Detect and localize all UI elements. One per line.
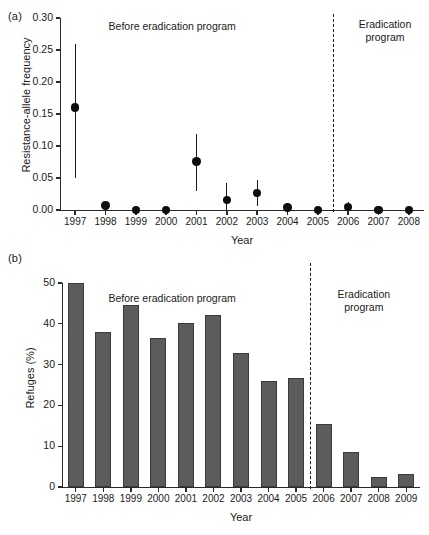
panel-a-y-tick-label: 0.15 — [12, 108, 53, 118]
panel-b-bar — [371, 477, 387, 487]
panel-a-annotation-before: Before eradication program — [72, 20, 272, 33]
panel-b-bar — [95, 332, 111, 487]
panel-a-data-point — [132, 206, 140, 214]
panel-b-x-tick — [323, 488, 324, 492]
panel-a-x-tick — [226, 211, 227, 215]
panel-b-bar — [343, 452, 359, 487]
panel-a-y-tick — [56, 209, 60, 210]
panel-b-x-tick — [295, 488, 296, 492]
panel-b-bar — [233, 353, 249, 487]
panel-a-y-tick — [56, 113, 60, 114]
panel-b-x-tick — [406, 488, 407, 492]
panel-a-y-tick-label: 0.00 — [12, 204, 53, 214]
panel-a-y-axis — [60, 18, 61, 210]
panel-a-data-point — [283, 203, 291, 211]
panel-b-bar — [68, 283, 84, 487]
panel-a-y-tick — [56, 49, 60, 50]
panel-b-y-tick-label: 20 — [22, 399, 55, 409]
panel-b-y-tick — [58, 323, 62, 324]
panel-b-annotation-eradication-line2: program — [304, 301, 424, 314]
panel-b-y-tick-label: 30 — [22, 359, 55, 369]
panel-b-x-tick — [213, 488, 214, 492]
panel-b-bar — [178, 323, 194, 487]
panel-b-y-tick — [58, 282, 62, 283]
panel-a-x-axis-title: Year — [0, 234, 429, 246]
panel-b-y-axis — [62, 283, 63, 487]
panel-b-bar — [316, 424, 332, 487]
panel-a-x-tick — [347, 211, 348, 215]
panel-a-data-point — [162, 206, 170, 214]
panel-a: (a) Resistance-allele frequency 0.000.05… — [0, 0, 429, 248]
panel-b-x-tick — [350, 488, 351, 492]
panel-b-x-tick — [75, 488, 76, 492]
panel-a-y-tick — [56, 17, 60, 18]
panel-a-y-tick-label: 0.05 — [12, 172, 53, 182]
panel-b-x-tick — [185, 488, 186, 492]
panel-a-data-point — [223, 196, 231, 204]
panel-b-bar — [398, 474, 414, 487]
panel-a-y-tick-label: 0.30 — [12, 12, 53, 22]
panel-a-y-tick-label: 0.25 — [12, 44, 53, 54]
panel-a-x-tick — [196, 211, 197, 215]
panel-a-y-tick — [56, 81, 60, 82]
panel-b-bar — [205, 315, 221, 487]
panel-b-y-tick-label: 10 — [22, 440, 55, 450]
panel-b-x-tick-label: 2009 — [389, 494, 423, 504]
panel-b-annotation-before: Before eradication program — [72, 292, 272, 305]
panel-b-y-tick — [58, 486, 62, 487]
panel-a-x-tick-label: 2008 — [391, 217, 427, 227]
panel-b-y-tick-label: 50 — [22, 277, 55, 287]
panel-b-x-tick — [240, 488, 241, 492]
panel-a-x-tick — [256, 211, 257, 215]
panel-a-x-tick — [105, 211, 106, 215]
panel-a-data-point — [253, 189, 261, 197]
panel-b-bar — [261, 381, 277, 487]
panel-b-x-tick — [268, 488, 269, 492]
panel-a-y-tick-label: 0.10 — [12, 140, 53, 150]
panel-b-bar — [123, 305, 139, 487]
panel-a-y-tick — [56, 177, 60, 178]
panel-a-annotation-eradication-line2: program — [325, 31, 429, 44]
panel-b-bar — [150, 338, 166, 487]
panel-a-annotation-eradication-line1: Eradication — [325, 18, 429, 31]
panel-b-x-tick — [378, 488, 379, 492]
panel-b-x-tick — [158, 488, 159, 492]
panel-b-annotation-eradication-line1: Eradication — [304, 288, 424, 301]
panel-b-x-tick — [130, 488, 131, 492]
panel-b-bar — [288, 378, 304, 487]
panel-b-y-tick — [58, 446, 62, 447]
figure-container: (a) Resistance-allele frequency 0.000.05… — [0, 0, 429, 535]
panel-b-x-tick — [103, 488, 104, 492]
panel-a-y-tick — [56, 145, 60, 146]
panel-b-y-tick-label: 0 — [22, 481, 55, 491]
panel-b-x-axis-title: Year — [0, 511, 429, 523]
panel-a-data-point — [101, 201, 109, 209]
panel-a-data-point — [374, 206, 382, 214]
panel-a-x-axis — [60, 210, 424, 211]
panel-a-data-point — [71, 103, 79, 111]
panel-a-data-point — [405, 206, 413, 214]
panel-a-data-point — [192, 157, 200, 165]
panel-a-y-tick-label: 0.20 — [12, 76, 53, 86]
panel-b-y-tick — [58, 364, 62, 365]
panel-a-data-point — [314, 206, 322, 214]
panel-b-y-tick — [58, 405, 62, 406]
panel-b-y-tick-label: 40 — [22, 318, 55, 328]
panel-b: (b) Refuges (%) 010203040501997199819992… — [0, 248, 429, 535]
panel-a-x-tick — [287, 211, 288, 215]
panel-a-x-tick — [74, 211, 75, 215]
